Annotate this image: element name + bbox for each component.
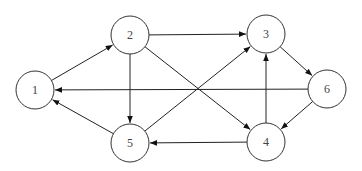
node-label: 1 <box>32 83 38 97</box>
node-label: 6 <box>324 82 330 96</box>
directed-graph: 123456 <box>0 0 362 171</box>
edge-1-to-2 <box>51 45 112 81</box>
node-5: 5 <box>111 124 149 162</box>
node-1: 1 <box>16 71 54 109</box>
node-4: 4 <box>247 123 285 161</box>
edge-6-to-1 <box>55 89 308 90</box>
node-label: 4 <box>263 135 269 149</box>
node-label: 5 <box>127 136 133 150</box>
node-2: 2 <box>111 16 149 54</box>
node-label: 2 <box>127 28 133 42</box>
edge-2-to-3 <box>149 34 246 35</box>
node-6: 6 <box>308 70 346 108</box>
node-label: 3 <box>263 27 269 41</box>
edge-6-to-4 <box>281 102 313 129</box>
edge-4-to-5 <box>150 142 247 143</box>
node-3: 3 <box>247 15 285 53</box>
nodes-layer: 123456 <box>16 15 346 162</box>
edge-5-to-1 <box>53 100 114 134</box>
edge-3-to-6 <box>280 47 312 76</box>
